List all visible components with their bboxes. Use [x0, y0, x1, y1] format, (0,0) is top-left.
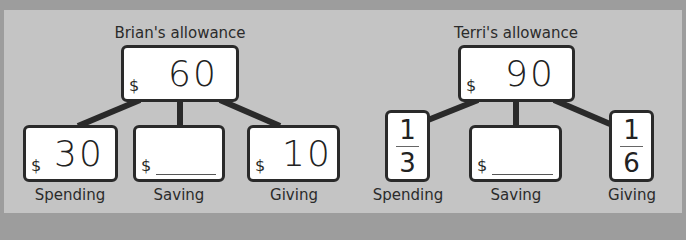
brian-total-box: $ 60 — [121, 45, 239, 102]
terri-title: Terri's allowance — [416, 24, 616, 42]
brian-giving-label: Giving — [244, 186, 344, 204]
terri-saving-label: Saving — [466, 186, 566, 204]
terri-spending-denominator: 3 — [388, 148, 427, 178]
terri-saving-blank[interactable] — [492, 174, 553, 175]
terri-saving-box[interactable]: $ — [469, 125, 562, 182]
brian-saving-blank[interactable] — [156, 174, 216, 175]
terri-spending-label: Spending — [358, 186, 458, 204]
brian-total-value: 60 — [168, 53, 218, 94]
dollar-sign: $ — [477, 156, 487, 175]
dollar-sign: $ — [255, 156, 265, 175]
terri-giving-box: 1 6 — [609, 110, 654, 182]
terri-total-value: 90 — [505, 53, 555, 94]
terri-giving-denominator: 6 — [612, 148, 651, 178]
dollar-sign: $ — [466, 76, 476, 95]
brian-spending-box: $ 30 — [23, 125, 118, 182]
fraction-bar — [396, 146, 419, 147]
terri-spending-numerator: 1 — [388, 115, 427, 145]
brian-title: Brian's allowance — [80, 24, 280, 42]
dollar-sign: $ — [31, 156, 41, 175]
fraction-bar — [620, 146, 643, 147]
dollar-sign: $ — [141, 156, 151, 175]
brian-spending-value: 30 — [54, 133, 104, 174]
terri-spending-box: 1 3 — [385, 110, 430, 182]
terri-total-box: $ 90 — [458, 45, 575, 102]
brian-giving-box: $ 10 — [247, 125, 340, 182]
terri-giving-label: Giving — [582, 186, 682, 204]
brian-saving-box[interactable]: $ — [133, 125, 225, 182]
brian-saving-label: Saving — [129, 186, 229, 204]
terri-giving-numerator: 1 — [612, 115, 651, 145]
brian-spending-label: Spending — [20, 186, 120, 204]
dollar-sign: $ — [129, 76, 139, 95]
brian-giving-value: 10 — [282, 133, 332, 174]
